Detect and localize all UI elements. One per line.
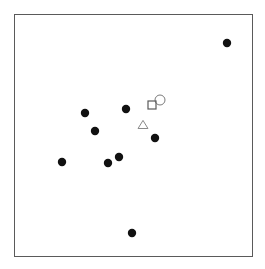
scatter-plot-figure [0, 0, 265, 269]
data-point-filled-circle [81, 109, 89, 117]
data-point-filled-circle [58, 158, 66, 166]
data-point-filled-circle [104, 159, 112, 167]
data-point-filled-circle [122, 105, 130, 113]
data-point-filled-circle [91, 127, 99, 135]
data-point-filled-circle [223, 39, 231, 47]
data-point-filled-circle [151, 134, 159, 142]
scatter-plot-canvas [0, 0, 265, 269]
data-point-filled-circle [115, 153, 123, 161]
plot-frame [15, 15, 253, 257]
data-point-filled-circle [128, 229, 136, 237]
